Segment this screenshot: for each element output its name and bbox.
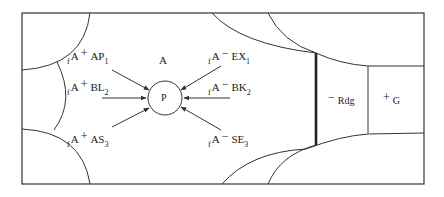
code: EX [231,50,246,62]
prefix: f [67,88,70,97]
prefix: f [67,57,70,66]
curve-top-right-inner [268,13,316,53]
curve-bottom-boundary [306,133,424,149]
prefix: f [208,88,211,97]
code: SE [231,133,244,145]
code: AS [90,133,104,145]
input-ex1: fA−EX1 [208,50,250,62]
sign: + [81,77,88,91]
sign: − [222,129,229,143]
input-se3: fA−SE3 [208,133,248,145]
sign: + [81,46,88,60]
input-ap1: fA+AP1 [67,50,108,62]
sign: + [81,129,88,143]
zone-g: +G [381,94,400,106]
zone-label: Rdg [338,95,355,106]
region-label: A [159,55,167,66]
code: BK [231,81,246,93]
sign: − [328,90,335,104]
center-node-label: P [161,93,167,103]
curve-top-boundary [316,53,424,66]
code: AP [90,50,104,62]
input-bk2: fA−BK2 [208,81,251,93]
index: 2 [247,88,251,97]
index: 1 [104,57,108,66]
prefix: f [208,57,211,66]
index: 3 [104,140,108,149]
code: BL [90,81,104,93]
curve-mid-left [54,62,66,130]
base: A [71,50,79,62]
input-bl2: fA+BL2 [67,81,108,93]
sign: + [383,90,390,104]
index: 3 [244,140,248,149]
input-as3: fA+AS3 [67,133,108,145]
base: A [212,133,220,145]
zone-rdg: −Rdg [326,94,354,106]
curve-bottom-right-inner [268,145,316,184]
index: 2 [104,88,108,97]
arrow-se3 [181,107,221,130]
index: 1 [246,57,250,66]
base: A [212,50,220,62]
arrow-ap1 [112,70,149,90]
prefix: f [208,140,211,149]
sign: − [222,77,229,91]
prefix: f [67,140,70,149]
base: A [71,81,79,93]
arrow-as3 [112,108,149,127]
base: A [71,133,79,145]
base: A [212,81,220,93]
sign: − [222,46,229,60]
diagram-canvas [0,0,444,197]
zone-label: G [393,95,400,106]
